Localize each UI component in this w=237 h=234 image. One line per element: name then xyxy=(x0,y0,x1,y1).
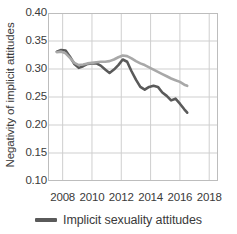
plot-frame xyxy=(48,13,218,181)
x-tick-label: 2018 xyxy=(197,192,222,204)
legend-swatch-implicit-sexuality-attitudes xyxy=(35,218,57,222)
y-tick-label: 0.20 xyxy=(3,119,47,131)
x-tick-label: 2014 xyxy=(138,192,163,204)
x-tick-label: 2010 xyxy=(80,192,105,204)
x-tick-label: 2016 xyxy=(167,192,192,204)
x-tick-label: 2008 xyxy=(50,192,75,204)
y-tick-label: 0.10 xyxy=(3,175,47,187)
y-tick-label: 0.15 xyxy=(3,147,47,159)
y-tick-label: 0.25 xyxy=(3,91,47,103)
y-tick-label: 0.35 xyxy=(3,35,47,47)
y-tick-label: 0.30 xyxy=(3,63,47,75)
y-tick-label: 0.40 xyxy=(3,7,47,19)
x-axis-tick-labels: 200820102012201420162018 xyxy=(0,188,237,206)
chart-figure: Negativity of implicit attitudes 0.100.1… xyxy=(0,0,237,234)
legend-label-implicit-sexuality-attitudes: Implicit sexuality attitudes xyxy=(63,213,202,227)
x-tick-label: 2012 xyxy=(109,192,134,204)
chart-legend: Implicit sexuality attitudes xyxy=(0,206,237,234)
plot-area xyxy=(48,13,218,181)
